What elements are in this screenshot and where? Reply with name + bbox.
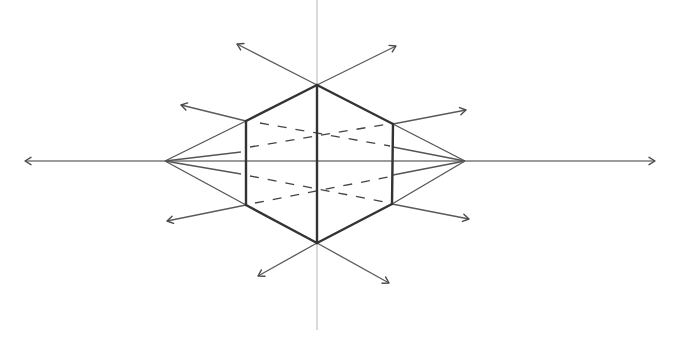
- hidden-edge-dashed: [250, 124, 388, 147]
- arrow-top-left: [237, 44, 317, 85]
- edge-bottom-right: [317, 204, 392, 243]
- arrow-lower-right: [392, 204, 469, 219]
- arrow-lower-left: [167, 205, 246, 221]
- arrow-bottom-right: [317, 243, 389, 283]
- horizon-line: [25, 157, 655, 164]
- edge-right: [392, 124, 393, 204]
- clipped-caption: [62, 0, 242, 4]
- arrow-bottom-left: [258, 243, 317, 276]
- edge-top-right: [317, 85, 393, 124]
- arrow-upper-left: [181, 105, 246, 121]
- hexagon-edges: [246, 85, 393, 243]
- convergence-lines: [165, 121, 465, 205]
- diagram-canvas: [0, 0, 673, 344]
- arrow-upper-right: [393, 110, 466, 124]
- convergence-line: [393, 124, 465, 161]
- convergence-line: [393, 147, 465, 161]
- edge-bottom-left: [246, 205, 317, 243]
- convergence-line: [165, 152, 241, 161]
- hidden-edges: [250, 123, 390, 203]
- convergence-line: [165, 121, 246, 161]
- hidden-edge-dashed: [250, 176, 390, 203]
- arrow-top-right: [317, 46, 396, 85]
- edge-top-left: [246, 85, 317, 121]
- perspective-diagram: [0, 0, 673, 344]
